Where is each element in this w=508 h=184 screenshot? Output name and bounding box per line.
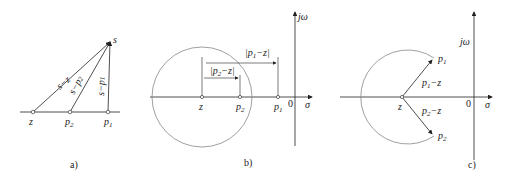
- zero-marker: [200, 95, 203, 98]
- jomega-label: jω: [296, 11, 308, 22]
- label-p1-z: |p1−z|: [245, 47, 270, 60]
- label-p1: p1: [437, 53, 447, 66]
- label-s: s: [113, 34, 117, 45]
- caption-a: a): [70, 159, 78, 171]
- label-p1: p1: [273, 101, 283, 114]
- caption-b: b): [244, 157, 252, 169]
- jomega-label: jω: [458, 36, 470, 47]
- zero-marker: [31, 110, 35, 114]
- label-z: z: [28, 116, 33, 127]
- label-s-p2: s−p2: [66, 73, 85, 96]
- panel-c: p1 p2 p1−z p2−z z 0 σ jω c): [340, 12, 492, 171]
- label-s-p1: s−p1: [95, 77, 107, 97]
- sigma-label: σ: [305, 99, 311, 110]
- label-p2: p2: [235, 101, 245, 114]
- origin-label: 0: [466, 98, 471, 109]
- label-p2-z: p2−z: [421, 105, 441, 118]
- label-p2: p2: [437, 130, 447, 143]
- figure-canvas: s z p2 p1 s−z s−p2 s−p1 a) |p1−z| |p2−z|…: [0, 0, 508, 184]
- panel-a: s z p2 p1 s−z s−p2 s−p1 a): [20, 34, 120, 171]
- zero-marker: [400, 95, 403, 98]
- label-z: z: [397, 101, 402, 112]
- pole-p1-marker: [106, 110, 110, 114]
- label-p2-z: |p2−z|: [210, 65, 235, 78]
- pole-p2-marker: [238, 95, 241, 98]
- label-p1-z: p1−z: [421, 77, 441, 90]
- origin-label: 0: [288, 98, 293, 109]
- pole-p2-marker: [68, 110, 72, 114]
- pole-p1-marker: [276, 95, 279, 98]
- sigma-label: σ: [485, 99, 491, 110]
- caption-c: c): [468, 159, 476, 171]
- vector-s-p1: [108, 42, 110, 112]
- root-locus-figure: s z p2 p1 s−z s−p2 s−p1 a) |p1−z| |p2−z|…: [0, 0, 508, 184]
- label-p2: p2: [64, 116, 74, 129]
- vector-p1-z: [402, 60, 432, 97]
- panel-b: |p1−z| |p2−z| z p2 p1 0 σ jω b): [150, 11, 312, 169]
- label-z: z: [198, 101, 203, 112]
- label-p1: p1: [103, 116, 113, 129]
